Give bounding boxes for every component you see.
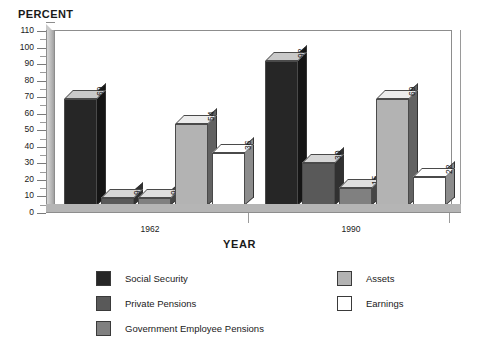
legend-label: Government Employee Pensions <box>125 323 264 334</box>
y-tick-minor <box>40 56 46 57</box>
y-tick-minor <box>40 172 46 173</box>
legend-column-right: AssetsEarnings <box>337 266 404 316</box>
legend-item[interactable]: Assets <box>337 266 404 291</box>
bar <box>175 124 208 213</box>
legend-item[interactable]: Private Pensions <box>96 291 264 316</box>
y-tick-major <box>37 64 46 65</box>
legend-swatch <box>337 271 352 286</box>
y-tick-label: 10 <box>6 191 34 200</box>
legend-item[interactable]: Government Employee Pensions <box>96 316 264 341</box>
bar-value-label: 36 <box>244 141 253 150</box>
bar <box>64 99 97 213</box>
y-tick-label: 40 <box>6 142 34 151</box>
y-tick-major <box>37 163 46 164</box>
y-tick-major <box>37 196 46 197</box>
y-tick-label: 100 <box>6 43 34 52</box>
x-axis-title: YEAR <box>0 238 479 250</box>
bar-front-face <box>64 99 97 213</box>
bar-front-face <box>376 99 409 213</box>
bar-value-label: 30 <box>334 151 343 160</box>
legend-swatch <box>96 271 111 286</box>
y-tick-major <box>37 97 46 98</box>
bar-front-face <box>175 124 208 213</box>
y-tick-major <box>37 180 46 181</box>
x-group-divider-tick <box>449 213 450 223</box>
bar-value-label: 92 <box>297 48 306 57</box>
y-tick-major <box>37 48 46 49</box>
y-tick-major <box>37 81 46 82</box>
bar-value-label: 69 <box>96 86 105 95</box>
bar <box>376 99 409 213</box>
y-tick-minor <box>40 72 46 73</box>
legend-column-left: Social SecurityPrivate PensionsGovernmen… <box>96 266 264 341</box>
legend-label: Earnings <box>366 298 404 309</box>
y-tick-label: 70 <box>6 92 34 101</box>
legend-swatch <box>337 296 352 311</box>
bar <box>265 61 298 213</box>
y-tick-label: 50 <box>6 125 34 134</box>
y-tick-minor <box>40 155 46 156</box>
y-tick-label: 20 <box>6 175 34 184</box>
y-tick-major <box>37 130 46 131</box>
x-tick-label: 1962 <box>130 224 170 234</box>
x-group-divider-tick <box>248 213 249 223</box>
legend-label: Assets <box>366 273 395 284</box>
y-tick-minor <box>40 188 46 189</box>
y-tick-minor <box>40 39 46 40</box>
y-tick-minor <box>40 139 46 140</box>
legend-label: Social Security <box>125 273 188 284</box>
legend-swatch <box>96 296 111 311</box>
legend: Social SecurityPrivate PensionsGovernmen… <box>96 266 456 344</box>
y-tick-major <box>37 213 46 214</box>
bar-front-face <box>265 61 298 213</box>
y-tick-label: 0 <box>6 208 34 217</box>
y-tick-major <box>37 147 46 148</box>
y-tick-minor <box>40 122 46 123</box>
legend-label: Private Pensions <box>125 298 196 309</box>
y-axis-title: PERCENT <box>18 8 73 20</box>
y-tick-label: 30 <box>6 158 34 167</box>
y-tick-label: 80 <box>6 76 34 85</box>
y-tick-label: 60 <box>6 109 34 118</box>
bar-chart: PERCENT 0102030405060708090100110 699954… <box>0 0 479 355</box>
y-tick-label: 110 <box>6 26 34 35</box>
bar-side-face <box>97 83 106 205</box>
plot-floor <box>46 204 461 213</box>
legend-item[interactable]: Social Security <box>96 266 264 291</box>
legend-item[interactable]: Earnings <box>337 291 404 316</box>
legend-swatch <box>96 321 111 336</box>
bar-value-label: 69 <box>408 86 417 95</box>
y-tick-minor <box>40 105 46 106</box>
y-tick-major <box>37 31 46 32</box>
y-tick-label: 90 <box>6 59 34 68</box>
x-tick-label: 1990 <box>331 224 371 234</box>
y-tick-major <box>37 114 46 115</box>
y-axis-wall <box>46 30 55 213</box>
y-tick-minor <box>40 89 46 90</box>
bar-value-label: 54 <box>207 111 216 120</box>
bar-value-label: 22 <box>445 164 454 173</box>
